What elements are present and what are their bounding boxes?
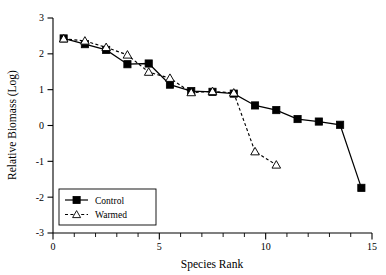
data-point-control: [358, 184, 365, 191]
y-tick-label: 3: [39, 12, 44, 23]
data-point-control: [145, 60, 152, 67]
data-point-control: [166, 81, 173, 88]
data-point-control: [315, 118, 322, 125]
data-point-control: [294, 115, 301, 122]
legend-label-warmed: Warmed: [95, 210, 127, 220]
chart-background: [0, 0, 386, 275]
y-tick-label: -1: [36, 156, 44, 167]
legend-marker-control-square: [73, 196, 80, 203]
chart-legend: Control Warmed: [59, 189, 156, 225]
x-tick-label: 15: [367, 241, 377, 252]
y-axis-title: Relative Biomass (Log): [6, 70, 19, 180]
y-tick-label: -3: [36, 227, 44, 238]
x-tick-label: 10: [261, 241, 271, 252]
data-point-control: [124, 61, 131, 68]
x-axis-title: Species Rank: [181, 258, 244, 271]
legend-label-control: Control: [95, 196, 124, 206]
y-tick-label: 0: [39, 120, 44, 131]
species-rank-biomass-chart: -3-2-10123 051015 Species Rank Relative …: [0, 0, 386, 275]
x-tick-label: 5: [157, 241, 162, 252]
data-point-control: [273, 106, 280, 113]
y-tick-label: 2: [39, 48, 44, 59]
y-tick-label: -2: [36, 192, 44, 203]
data-point-control: [337, 121, 344, 128]
x-tick-label: 0: [51, 241, 56, 252]
figure-container: -3-2-10123 051015 Species Rank Relative …: [0, 0, 386, 275]
y-tick-label: 1: [39, 84, 44, 95]
data-point-control: [251, 102, 258, 109]
